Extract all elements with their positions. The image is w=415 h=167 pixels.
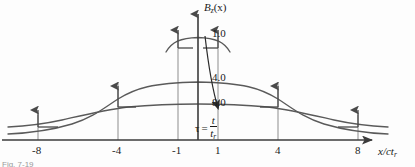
xtick-label-plus4: 4 bbox=[275, 145, 281, 156]
xtick-label-minus1: -1 bbox=[172, 145, 181, 156]
x-axis-title-subscript: r bbox=[394, 150, 397, 159]
y-axis-title: Bz(x) bbox=[204, 2, 226, 14]
xtick-label-minus8: -8 bbox=[32, 145, 41, 156]
tau-equals-sign: = bbox=[201, 122, 207, 134]
tau-definition-annotation: τ = t tr bbox=[195, 115, 217, 140]
tau-symbol: τ bbox=[195, 122, 199, 134]
xtick-label-plus8: 8 bbox=[355, 145, 361, 156]
up-arrow-minus4 bbox=[118, 86, 136, 107]
tau-denominator-subscript: r bbox=[213, 132, 216, 141]
plot-canvas bbox=[0, 0, 415, 167]
tau-fraction: t tr bbox=[210, 115, 217, 140]
tau-numerator: t bbox=[210, 115, 217, 127]
curve-label-tau-8: 8.0 bbox=[212, 97, 226, 108]
curve-label-tau-1: 1.0 bbox=[212, 28, 226, 39]
y-axis-title-argument: (x) bbox=[214, 1, 227, 13]
figure-caption-fragment: Fig. 7-19 bbox=[2, 160, 34, 167]
figure-container: Bz(x) x/ctr 1.0 4.0 8.0 τ = t tr -8 -4 -… bbox=[0, 0, 415, 167]
y-axis-title-main: B bbox=[204, 1, 211, 13]
x-axis-title: x/ctr bbox=[378, 146, 397, 158]
tau-denominator: tr bbox=[210, 127, 216, 140]
up-arrow-plus4 bbox=[260, 86, 278, 107]
xtick-label-plus1: 1 bbox=[215, 145, 221, 156]
xtick-label-minus4: -4 bbox=[112, 145, 121, 156]
curve-label-tau-4: 4.0 bbox=[212, 72, 226, 83]
x-axis-title-main: x/ct bbox=[378, 145, 394, 157]
